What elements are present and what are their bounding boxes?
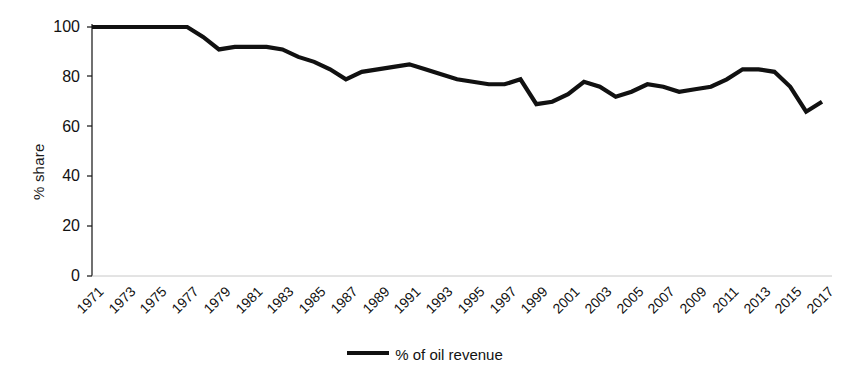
chart-figure: 100806040200 197119731975197719791981198…	[0, 0, 850, 377]
chart-legend: % of oil revenue	[0, 344, 850, 363]
y-axis-title: % share	[30, 144, 47, 200]
x-axis-tick-labels: 1971197319751977197919811983198519871989…	[0, 0, 850, 377]
legend-swatch-oil-revenue	[347, 351, 389, 355]
legend-label-oil-revenue: % of oil revenue	[395, 346, 503, 363]
